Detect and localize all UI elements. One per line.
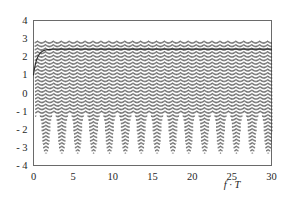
y-tick-label: - 2 <box>16 124 27 135</box>
y-tick-label: 2 <box>22 51 27 62</box>
x-tick-label: 10 <box>108 171 119 182</box>
x-tick-label: 5 <box>71 171 76 182</box>
x-tick-label: 20 <box>187 171 198 182</box>
y-tick-label: - 4 <box>16 160 28 171</box>
x-tick-label: 15 <box>147 171 158 182</box>
y-tick-label: 4 <box>22 15 28 26</box>
x-tick-label: 30 <box>266 171 277 182</box>
chart-canvas: 43210- 1- 2- 3- 4 051015202530 f · T <box>0 0 288 197</box>
x-tick-label: 0 <box>31 171 36 182</box>
y-tick-label: 3 <box>22 33 27 44</box>
y-tick-label: 1 <box>22 69 27 80</box>
y-tick-label: - 1 <box>16 106 27 117</box>
x-axis-title: f · T <box>224 179 242 190</box>
y-tick-label: - 3 <box>16 142 27 153</box>
y-tick-label: 0 <box>22 88 27 99</box>
chart-figure: 43210- 1- 2- 3- 4 051015202530 f · T <box>0 0 288 197</box>
